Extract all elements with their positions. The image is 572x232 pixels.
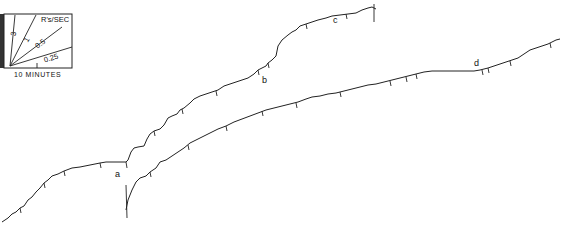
rate-legend: R's/SEC 3 1 0.5 0.25 xyxy=(0,14,72,68)
segment-label-a: a xyxy=(115,169,120,179)
trace-2 xyxy=(126,39,560,218)
segment-label-c: c xyxy=(333,15,338,25)
time-scale-label: 10 MINUTES xyxy=(14,71,61,78)
segment-label-d: d xyxy=(474,58,479,68)
cumulative-record-figure: R's/SEC 3 1 0.5 0.25 xyxy=(0,0,572,232)
legend-title: R's/SEC xyxy=(41,15,70,24)
segment-label-b: b xyxy=(262,75,267,85)
